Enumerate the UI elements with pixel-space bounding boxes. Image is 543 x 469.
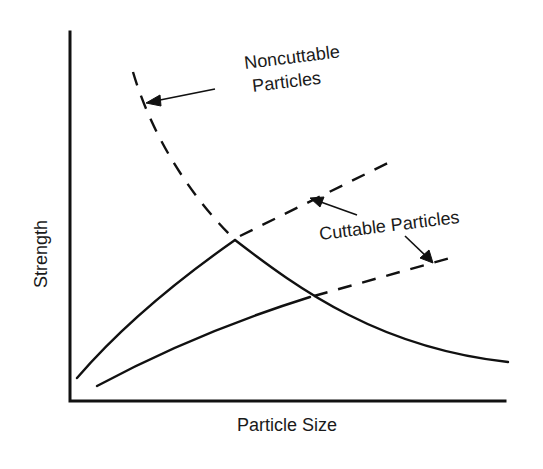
strength-vs-particle-size-chart: Noncuttable Particles Cuttable Particles… <box>0 0 543 469</box>
noncuttable-label-line2: Particles <box>251 68 322 96</box>
cuttable-arrow-lower <box>405 236 433 263</box>
x-axis-label: Particle Size <box>237 415 337 435</box>
cuttable-arrow-upper <box>310 197 357 215</box>
noncuttable-dashed-curve <box>133 72 232 237</box>
cuttable-label: Cuttable Particles <box>318 207 460 244</box>
noncuttable-label-line1: Noncuttable <box>243 41 341 73</box>
y-axis-label: Strength <box>31 220 51 288</box>
cuttable-lower-extension <box>314 256 457 296</box>
noncuttable-arrow <box>146 89 215 106</box>
noncuttable-solid-curve <box>235 240 508 362</box>
cuttable-lower-curve <box>97 297 310 386</box>
